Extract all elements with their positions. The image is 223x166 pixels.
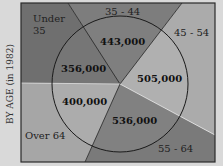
value-under35: 356,000 <box>61 63 106 75</box>
value-55-64: 536,000 <box>112 115 157 127</box>
label-under35-line1: Under <box>33 13 65 24</box>
value-45-54: 505,000 <box>137 73 182 85</box>
value-over64: 400,000 <box>62 96 107 108</box>
label-55-64: 55 - 64 <box>158 143 193 154</box>
value-35-44: 443,000 <box>100 36 145 48</box>
label-35-44: 35 - 44 <box>105 6 140 17</box>
pie-chart: Under 35 35 - 44 45 - 54 55 - 64 Over 64… <box>0 0 223 166</box>
label-over64: Over 64 <box>25 130 65 141</box>
label-under35-line2: 35 <box>33 25 46 36</box>
label-45-54: 45 - 54 <box>174 27 209 38</box>
